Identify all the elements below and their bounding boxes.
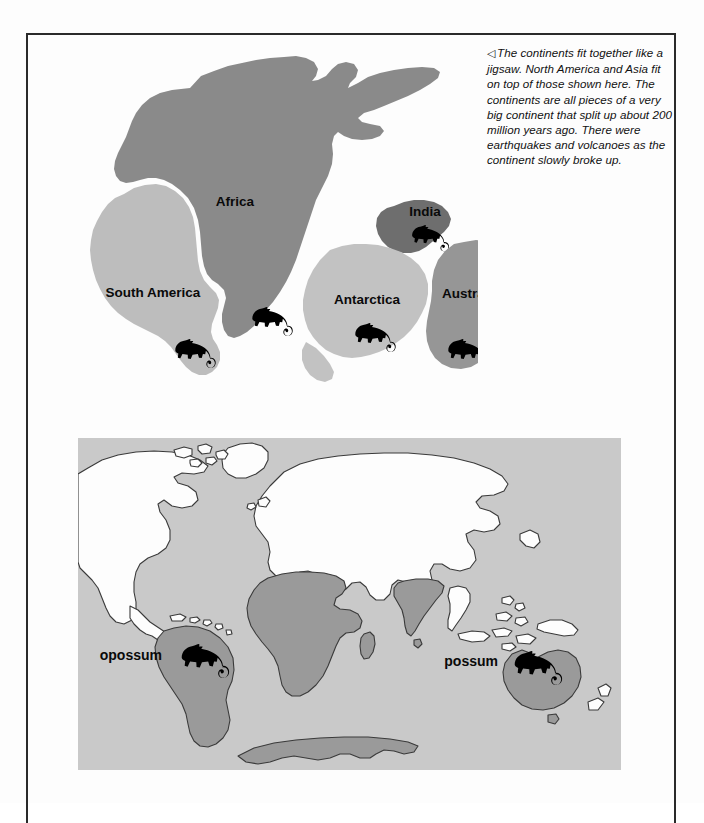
pangaea-label-africa: Africa xyxy=(216,194,255,209)
marsupial-fossil-africa xyxy=(252,307,292,336)
map-arctic-island-2 xyxy=(198,444,212,454)
pangaea-india: India xyxy=(376,200,451,253)
pangaea-label-antarctica: Antarctica xyxy=(334,292,401,307)
map-arctic-island-1 xyxy=(174,447,192,458)
world-map: opossum possum xyxy=(78,438,621,770)
pangaea-label-india: India xyxy=(409,204,441,219)
map-label-opossum: opossum xyxy=(100,647,162,663)
caption-text: The continents fit together like a jigsa… xyxy=(487,46,672,166)
pangaea-australia: Australia xyxy=(426,240,478,369)
pangaea-antarctica: Antarctica xyxy=(302,244,428,382)
pangaea-diagram: Africa South America India xyxy=(28,36,478,421)
pangaea-label-australia: Australia xyxy=(442,286,478,301)
map-label-possum: possum xyxy=(444,653,498,669)
pangaea-label-south-america: South America xyxy=(106,285,201,300)
figure-caption: ◁The continents fit together like a jigs… xyxy=(487,45,673,168)
caption-marker-icon: ◁ xyxy=(487,47,495,59)
map-caribbean-5 xyxy=(226,630,232,635)
